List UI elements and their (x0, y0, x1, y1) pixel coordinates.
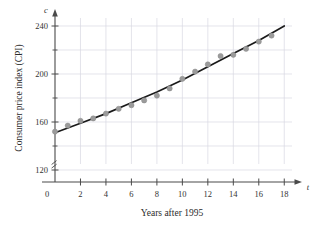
x-tick-label: 18 (280, 189, 289, 199)
x-tick-label: 10 (178, 189, 187, 199)
data-point (269, 33, 274, 38)
horizontal-grid-lines (55, 26, 292, 170)
data-point (116, 106, 121, 111)
data-point-markers (52, 33, 274, 134)
data-point (193, 69, 198, 74)
data-point (52, 129, 57, 134)
vertical-grid-lines (80, 18, 284, 164)
x-tick-label: 16 (255, 189, 264, 199)
cpi-scatter-chart-figure: 120160200240 024681012141618 c t Years a… (0, 0, 321, 228)
data-point (218, 53, 223, 58)
data-point (65, 123, 70, 128)
y-tick-label: 120 (35, 165, 48, 175)
x-axis-title: Years after 1995 (141, 208, 204, 218)
y-axis-title: Consumer price index (CPI) (14, 44, 25, 151)
data-point (231, 52, 236, 57)
x-tick-label: 14 (229, 189, 238, 199)
y-tick-label: 160 (35, 117, 48, 127)
x-tick-label: 12 (204, 189, 213, 199)
x-tick-label: 2 (78, 189, 82, 199)
y-axis-break-icon (52, 161, 57, 169)
data-point (180, 76, 185, 81)
y-tick-labels: 120160200240 (35, 21, 48, 175)
x-tick-label: 6 (129, 189, 133, 199)
data-point (205, 62, 210, 67)
y-axis (52, 9, 59, 182)
data-point (142, 98, 147, 103)
data-point (103, 111, 108, 116)
data-point (78, 118, 83, 123)
x-axis (42, 179, 302, 186)
data-point (129, 103, 134, 108)
data-point (154, 93, 159, 98)
x-tick-labels: 024681012141618 (45, 189, 289, 199)
fitted-curve (55, 26, 284, 133)
chart-canvas: 120160200240 024681012141618 c t Years a… (0, 0, 321, 228)
x-tick-label: 0 (45, 189, 49, 199)
y-tick-label: 240 (35, 21, 48, 31)
x-axis-variable-label: t (307, 182, 310, 192)
x-tick-label: 8 (155, 189, 159, 199)
y-tick-label: 200 (35, 69, 48, 79)
data-point (243, 46, 248, 51)
data-point (167, 86, 172, 91)
x-axis-arrow-icon (295, 179, 303, 185)
y-axis-variable-label: c (44, 5, 48, 15)
x-tick-label: 4 (104, 189, 109, 199)
y-axis-arrow-icon (52, 9, 58, 17)
data-point (91, 116, 96, 121)
data-point (256, 39, 261, 44)
